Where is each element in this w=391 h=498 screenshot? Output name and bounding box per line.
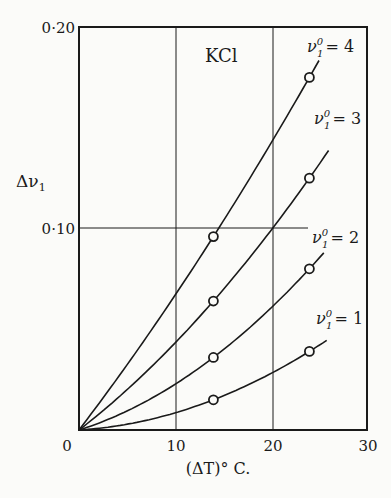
xtick-30: 30 xyxy=(358,437,377,455)
data-point-marker xyxy=(209,232,218,241)
data-point-marker xyxy=(209,297,218,306)
data-point-marker xyxy=(305,347,314,356)
xtick-20: 20 xyxy=(263,437,282,455)
series-label-4: ν01= 4 xyxy=(307,36,354,59)
series-curve-4 xyxy=(79,61,319,431)
chart-title: KCl xyxy=(205,45,238,66)
data-markers xyxy=(209,73,314,404)
data-point-marker xyxy=(209,395,218,404)
xtick-10: 10 xyxy=(166,437,185,455)
data-point-marker xyxy=(305,264,314,273)
series-label-2: ν01= 2 xyxy=(312,227,359,250)
series-curves xyxy=(79,61,329,431)
data-point-marker xyxy=(305,174,314,183)
series-label-1: ν01= 1 xyxy=(316,308,363,331)
data-point-marker xyxy=(209,353,218,362)
chart: 0·20 0·10 0 10 20 30 (ΔT)° C. Δν1 KCl ν0… xyxy=(0,0,391,498)
series-curve-3 xyxy=(79,151,329,431)
ytick-010: 0·10 xyxy=(42,220,75,238)
y-axis-title: Δν1 xyxy=(16,171,46,194)
ytick-0: 0 xyxy=(62,437,72,455)
series-label-3: ν01= 3 xyxy=(314,108,361,131)
data-point-marker xyxy=(305,73,314,82)
ytick-020: 0·20 xyxy=(42,19,75,37)
x-axis-title: (ΔT)° C. xyxy=(186,459,251,478)
